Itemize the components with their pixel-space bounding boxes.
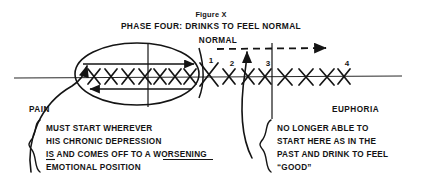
right-annotation-line-4: “GOOD” [277,163,312,172]
marker-1-label: 1 [209,56,214,65]
right-annotation-line-2: START HERE AS IN THE [277,137,376,146]
marker-3-label: 3 [266,59,271,68]
left-annotation-line-3: IS AND COMES OFF TO A WORSENING [46,150,207,159]
left-annotation-line3-middle: AND COMES OFF TO A [54,150,153,159]
relapse-curved-arrow [242,52,252,158]
phase-four-diagram: Figure X PHASE FOUR: DRINKS TO FEEL NORM… [0,0,422,190]
figure-title: PHASE FOUR: DRINKS TO FEEL NORMAL [121,21,301,31]
normal-label: NORMAL [199,36,237,45]
left-annotation-line-1: MUST START WHEREVER [46,124,153,133]
pain-cluster-ellipse [75,43,199,105]
left-annotation-underlined-is: IS [46,150,55,159]
marker-4-label: 4 [345,59,350,68]
x-marks-on-axis [200,63,350,86]
left-annotation-underlined-worsening: WORSENING [153,150,207,159]
pain-label: PAIN [29,105,50,114]
marker-2-label: 2 [230,59,235,68]
right-annotation-line-1: NO LONGER ABLE TO [277,124,369,133]
figure-number-label: Figure X [195,10,226,19]
left-annotation-line-2: HIS CHRONIC DEPRESSION [46,137,162,146]
right-annotation-brace [260,120,271,172]
x-marks-in-ellipse [88,69,196,84]
right-annotation-line-3: PAST AND DRINK TO FEEL [277,150,388,159]
left-annotation-line-4: EMOTIONAL POSITION [46,163,141,172]
figure-container: Figure X PHASE FOUR: DRINKS TO FEEL NORM… [0,0,422,190]
euphoria-label: EUPHORIA [332,105,379,114]
